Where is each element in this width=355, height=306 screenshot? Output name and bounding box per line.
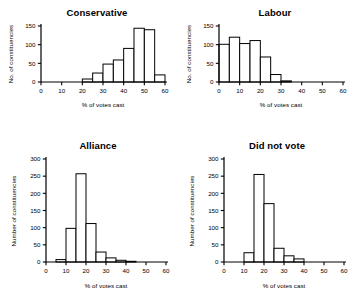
y-tick-label: 150: [25, 22, 36, 29]
histogram-bar: [66, 228, 76, 262]
histogram-bar: [219, 44, 229, 82]
chart-panel-alliance: Alliance0102030405060050100150200250300%…: [0, 128, 177, 306]
histogram-bar: [106, 258, 116, 262]
x-tick-label: 10: [236, 87, 243, 94]
x-tick-label: 60: [340, 87, 347, 94]
y-tick-label: 100: [203, 41, 214, 48]
histogram-bar: [113, 60, 123, 82]
y-tick-label: 0: [37, 258, 41, 265]
histogram-bar: [250, 41, 260, 82]
histogram-bar: [103, 64, 113, 82]
x-axis-label: % of votes cast: [85, 282, 128, 289]
x-tick-label: 60: [163, 267, 170, 274]
histogram-bar: [96, 252, 106, 262]
x-tick-label: 10: [241, 267, 248, 274]
chart-panel-conservative: Conservative0102030405060050100150% of v…: [0, 0, 177, 128]
chart-title: Conservative: [67, 7, 128, 18]
axis-lines: [224, 157, 346, 262]
histogram-bar: [93, 73, 103, 82]
did-not-vote-histogram: Did not vote0102030405060050100150200250…: [177, 128, 355, 306]
histogram-bar: [264, 204, 274, 262]
histogram-bar: [271, 75, 281, 82]
axis-lines: [46, 157, 168, 262]
histogram-bar: [260, 57, 270, 82]
x-tick-label: 20: [261, 267, 268, 274]
chart-panel-did-not-vote: Did not vote0102030405060050100150200250…: [177, 128, 355, 306]
x-tick-label: 30: [281, 267, 288, 274]
figure-panel-grid: Conservative0102030405060050100150% of v…: [0, 0, 355, 306]
alliance-histogram: Alliance0102030405060050100150200250300%…: [0, 128, 177, 306]
chart-title: Labour: [259, 7, 292, 18]
x-tick-label: 20: [257, 87, 264, 94]
x-tick-label: 0: [39, 87, 43, 94]
labour-histogram: Labour0102030405060050100150% of votes c…: [177, 0, 355, 128]
x-tick-label: 0: [222, 267, 226, 274]
x-tick-label: 20: [83, 267, 90, 274]
conservative-histogram: Conservative0102030405060050100150% of v…: [0, 0, 177, 128]
y-tick-label: 100: [25, 41, 36, 48]
histogram-bar: [134, 28, 144, 82]
histogram-bar: [254, 174, 264, 262]
y-tick-label: 100: [30, 224, 41, 231]
y-axis-label: Number of constituencies: [188, 175, 195, 246]
x-tick-label: 30: [103, 267, 110, 274]
histogram-bar: [240, 44, 250, 82]
y-tick-label: 50: [207, 60, 214, 67]
y-tick-label: 0: [210, 78, 214, 85]
chart-panel-labour: Labour0102030405060050100150% of votes c…: [177, 0, 355, 128]
histogram-bar: [144, 30, 154, 82]
y-tick-label: 50: [34, 241, 41, 248]
chart-title: Alliance: [79, 140, 116, 151]
x-tick-label: 50: [141, 87, 148, 94]
x-tick-label: 10: [58, 87, 65, 94]
y-axis-label: No. of constituencies: [7, 25, 14, 84]
x-axis-label: % of votes cast: [82, 101, 125, 108]
x-tick-label: 0: [217, 87, 221, 94]
y-tick-label: 150: [208, 207, 219, 214]
y-axis-label: No. of constituencies: [185, 25, 192, 84]
x-tick-label: 10: [63, 267, 70, 274]
y-tick-label: 50: [212, 241, 219, 248]
histogram-bar: [155, 75, 165, 82]
histogram-bar: [274, 248, 284, 262]
y-tick-label: 200: [208, 190, 219, 197]
x-tick-label: 60: [162, 87, 169, 94]
y-tick-label: 100: [208, 224, 219, 231]
y-tick-label: 50: [29, 60, 36, 67]
x-axis-label: % of votes cast: [263, 282, 306, 289]
x-tick-label: 20: [79, 87, 86, 94]
y-tick-label: 300: [208, 155, 219, 162]
y-tick-label: 0: [32, 78, 36, 85]
y-tick-label: 250: [208, 172, 219, 179]
x-tick-label: 40: [120, 87, 127, 94]
chart-title: Did not vote: [249, 140, 305, 151]
y-tick-label: 200: [30, 190, 41, 197]
y-tick-label: 250: [30, 172, 41, 179]
y-axis-label: Number of constituencies: [10, 175, 17, 246]
histogram-bar: [284, 256, 294, 262]
x-tick-label: 60: [341, 267, 348, 274]
histogram-bar: [76, 174, 86, 262]
histogram-bar: [124, 48, 134, 82]
histogram-bar: [244, 253, 254, 262]
y-tick-label: 300: [30, 155, 41, 162]
histogram-bar: [86, 224, 96, 262]
x-tick-label: 40: [123, 267, 130, 274]
x-tick-label: 30: [100, 87, 107, 94]
histogram-bar: [229, 37, 239, 82]
x-tick-label: 50: [319, 87, 326, 94]
x-tick-label: 50: [321, 267, 328, 274]
x-tick-label: 30: [278, 87, 285, 94]
y-tick-label: 0: [215, 258, 219, 265]
x-tick-label: 0: [44, 267, 48, 274]
y-tick-label: 150: [203, 22, 214, 29]
x-axis-label: % of votes cast: [260, 101, 303, 108]
y-tick-label: 150: [30, 207, 41, 214]
x-tick-label: 50: [143, 267, 150, 274]
x-tick-label: 40: [298, 87, 305, 94]
x-tick-label: 40: [301, 267, 308, 274]
